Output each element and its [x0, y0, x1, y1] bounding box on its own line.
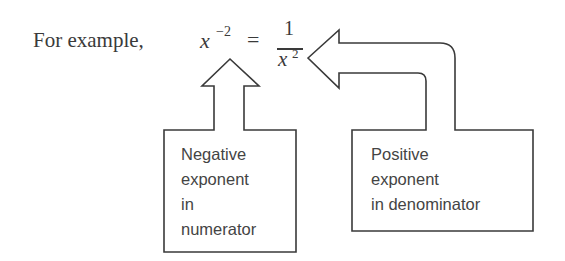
fraction-denominator-base: x: [278, 47, 287, 72]
equation-equals: =: [247, 27, 259, 53]
equation-base: x: [200, 28, 210, 54]
callout-line: Positive: [371, 142, 480, 167]
callout-line: in denominator: [371, 192, 480, 218]
callout-line: Negative: [181, 142, 256, 167]
callout-line: numerator: [181, 217, 256, 244]
fraction-numerator: 1: [284, 17, 294, 40]
diagram-canvas: For example, x −2 = 1 x 2 Negative expon…: [0, 0, 565, 261]
callout-line: in: [181, 192, 256, 217]
equation-exponent: −2: [216, 24, 231, 40]
callout-line: exponent: [371, 167, 480, 192]
callout-line: exponent: [181, 167, 256, 192]
callout-negative-exponent: Negative exponent in numerator: [181, 142, 256, 244]
fraction-denominator-exponent: 2: [292, 46, 299, 62]
callout-positive-exponent: Positive exponent in denominator: [371, 142, 480, 218]
equation-prefix: For example,: [33, 28, 144, 53]
